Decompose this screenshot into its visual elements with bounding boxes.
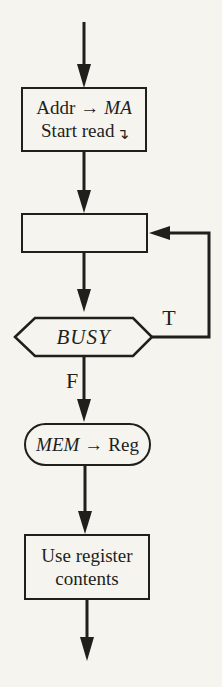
false-arrowhead-icon	[77, 399, 91, 422]
addr-dest-text: MA	[104, 97, 131, 118]
mem-dest-text: Reg	[108, 434, 139, 455]
mem-arrowhead-icon	[78, 511, 92, 534]
addr-op-text: Addr	[36, 97, 75, 118]
box-addr-line1: Addr→MA	[36, 96, 132, 119]
corner-down-arrow-icon: ↴	[116, 125, 129, 143]
process-box-use-register: Use register contents	[24, 534, 150, 600]
transfer-arrow-icon: →	[80, 97, 99, 118]
pill-mem-line: MEM→Reg	[36, 433, 139, 456]
flowchart-canvas: Addr→MA Start read↴ BUSY T F MEM→Reg Use…	[0, 0, 222, 687]
operation-pill-mem-to-reg: MEM→Reg	[24, 423, 151, 466]
mem-source-text: MEM	[36, 434, 79, 455]
start-read-text: Start read	[41, 120, 114, 141]
branch-true-label: T	[157, 305, 181, 331]
box-use-line2: contents	[55, 567, 118, 590]
exit-arrowhead-icon	[80, 637, 94, 661]
decision-busy-label: BUSY	[15, 318, 152, 356]
transfer-arrow-icon: →	[84, 434, 103, 455]
box-use-line1: Use register	[41, 544, 132, 567]
wait-arrowhead-icon	[77, 289, 91, 312]
box-addr-line2: Start read↴	[41, 119, 127, 144]
addr-arrowhead-icon	[77, 190, 91, 213]
process-box-wait-empty	[21, 213, 148, 253]
loop-arrowhead-icon	[149, 226, 170, 240]
process-box-addr-start-read: Addr→MA Start read↴	[21, 87, 147, 152]
entry-arrowhead-icon	[77, 64, 91, 88]
branch-false-label: F	[60, 368, 84, 394]
